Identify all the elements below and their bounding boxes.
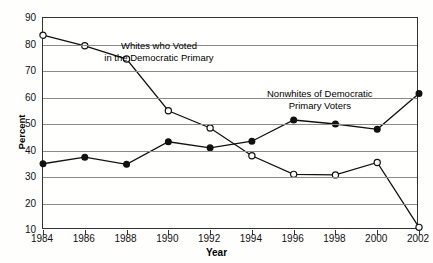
y-tick-label: 80 <box>14 38 36 49</box>
x-axis-title: Year <box>0 247 433 258</box>
y-tick-label: 20 <box>14 197 36 208</box>
data-point-marker <box>374 159 380 165</box>
data-point-marker <box>165 108 171 114</box>
x-tick-label: 1988 <box>114 233 136 244</box>
data-point-marker <box>40 32 46 38</box>
annotation-nonwhites: Nonwhites of Democratic Primary Voters <box>267 88 373 111</box>
x-tick-label: 1986 <box>73 233 95 244</box>
x-tick-label: 1996 <box>282 233 304 244</box>
annotation-whites-line2: in the Democratic Primary <box>104 52 213 64</box>
annotation-whites-line1: Whites who Voted <box>104 40 213 52</box>
gridline <box>43 45 417 46</box>
data-point-marker <box>249 153 255 159</box>
x-tick-label: 1998 <box>323 233 345 244</box>
data-point-marker <box>165 139 171 145</box>
data-point-marker <box>124 161 130 167</box>
annotation-nonwhites-line1: Nonwhites of Democratic <box>267 88 373 100</box>
data-point-marker <box>374 126 380 132</box>
y-tick-label: 50 <box>14 118 36 129</box>
x-tick-label: 1992 <box>198 233 220 244</box>
data-point-marker <box>416 91 422 97</box>
data-point-marker <box>40 161 46 167</box>
data-point-marker <box>249 138 255 144</box>
annotation-nonwhites-line2: Primary Voters <box>267 100 373 112</box>
data-point-marker <box>291 117 297 123</box>
annotation-whites: Whites who Voted in the Democratic Prima… <box>104 40 213 63</box>
y-tick-label: 70 <box>14 65 36 76</box>
data-point-marker <box>82 154 88 160</box>
y-tick-label: 90 <box>14 12 36 23</box>
gridline <box>43 204 417 205</box>
gridline <box>43 177 417 178</box>
x-tick-label: 1990 <box>156 233 178 244</box>
gridline <box>43 71 417 72</box>
gridline <box>43 124 417 125</box>
x-tick-label: 2002 <box>407 233 429 244</box>
series-line <box>43 35 419 227</box>
x-tick-label: 1994 <box>240 233 262 244</box>
data-point-marker <box>207 125 213 131</box>
line-chart: Percent Year 102030405060708090 19841986… <box>0 0 433 263</box>
y-tick-label: 30 <box>14 171 36 182</box>
gridline <box>43 151 417 152</box>
x-tick-label: 1984 <box>31 233 53 244</box>
y-tick-label: 40 <box>14 144 36 155</box>
y-tick-label: 60 <box>14 91 36 102</box>
x-tick-label: 2000 <box>365 233 387 244</box>
plot-area <box>42 17 418 229</box>
